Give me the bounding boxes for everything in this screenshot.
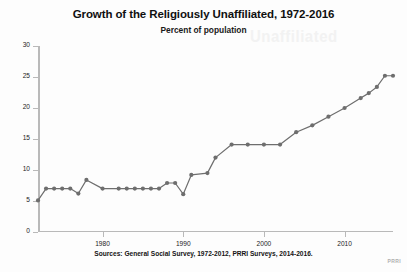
data-point bbox=[125, 187, 129, 191]
series-line bbox=[38, 76, 393, 201]
y-tick-0: 0 bbox=[33, 232, 38, 233]
x-tick-1990: 1990 bbox=[183, 232, 184, 237]
data-point bbox=[165, 181, 169, 185]
data-point bbox=[213, 156, 217, 160]
plot-area: 051015202530 1980199020002010 bbox=[38, 46, 393, 232]
chart-title: Growth of the Religiously Unaffiliated, … bbox=[0, 8, 407, 20]
data-point bbox=[60, 187, 64, 191]
data-point bbox=[205, 171, 209, 175]
y-tick-label-25: 25 bbox=[23, 72, 30, 79]
data-point bbox=[310, 123, 314, 127]
data-point bbox=[141, 187, 145, 191]
data-point bbox=[326, 115, 330, 119]
data-point bbox=[76, 191, 80, 195]
data-point bbox=[84, 178, 88, 182]
data-point bbox=[294, 130, 298, 134]
data-point bbox=[68, 187, 72, 191]
chart-subtitle: Percent of population bbox=[0, 25, 407, 35]
x-tick-1980: 1980 bbox=[103, 232, 104, 237]
y-tick-label-15: 15 bbox=[23, 134, 30, 141]
y-tick-label-5: 5 bbox=[26, 196, 30, 203]
data-point bbox=[36, 198, 40, 202]
data-point bbox=[383, 74, 387, 78]
y-tick-label-20: 20 bbox=[23, 103, 30, 110]
data-point bbox=[149, 187, 153, 191]
sources-note: Sources: General Social Survey, 1972-201… bbox=[0, 250, 407, 257]
data-point bbox=[44, 187, 48, 191]
x-tick-label-2010: 2010 bbox=[337, 240, 352, 247]
x-tick-label-2000: 2000 bbox=[257, 240, 272, 247]
data-point bbox=[52, 187, 56, 191]
watermark-logo: PRRI bbox=[387, 258, 401, 264]
data-point bbox=[230, 142, 234, 146]
data-point bbox=[375, 85, 379, 89]
x-tick-2000: 2000 bbox=[264, 232, 265, 237]
data-point bbox=[117, 187, 121, 191]
chart-page: Unaffiliated Growth of the Religiously U… bbox=[0, 0, 407, 272]
data-point bbox=[367, 91, 371, 95]
y-tick-label-30: 30 bbox=[23, 41, 30, 48]
data-point bbox=[100, 187, 104, 191]
data-point bbox=[181, 192, 185, 196]
data-point bbox=[359, 96, 363, 100]
y-tick-label-10: 10 bbox=[23, 165, 30, 172]
data-point bbox=[173, 181, 177, 185]
y-tick-label-0: 0 bbox=[26, 227, 30, 234]
data-point bbox=[157, 187, 161, 191]
x-tick-2010: 2010 bbox=[345, 232, 346, 237]
data-point bbox=[391, 74, 395, 78]
data-series bbox=[38, 46, 393, 232]
data-point bbox=[189, 173, 193, 177]
data-point bbox=[133, 187, 137, 191]
x-tick-label-1980: 1980 bbox=[95, 240, 110, 247]
data-point bbox=[278, 142, 282, 146]
data-point bbox=[246, 142, 250, 146]
data-point bbox=[342, 106, 346, 110]
data-point bbox=[262, 142, 266, 146]
x-tick-label-1990: 1990 bbox=[176, 240, 191, 247]
